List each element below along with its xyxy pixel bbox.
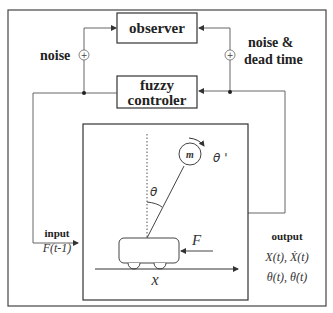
output-title: output <box>271 230 303 242</box>
fuzzy-label: fuzzy <box>140 77 175 93</box>
mass-label: m <box>186 149 194 160</box>
inverted-pendulum-control-diagram: observer fuzzy controler + noise + noise… <box>0 0 333 313</box>
fuzzy-controller-block: fuzzy controler <box>117 76 197 108</box>
junction-dot-left <box>82 91 86 95</box>
controler-label: controler <box>128 92 187 108</box>
summing-junction-right: + <box>225 50 235 60</box>
input-title: input <box>44 227 69 239</box>
output-states-xy: X(t), Ẋ(t) <box>264 250 308 264</box>
noise-deadtime-label-1: noise & <box>248 35 294 50</box>
pendulum-mass: m <box>179 143 201 165</box>
angular-velocity-label: θ ' <box>213 151 227 165</box>
observer-label: observer <box>129 20 185 36</box>
noise-deadtime-label-2: dead time <box>244 52 303 67</box>
summing-junction-left: + <box>79 50 89 60</box>
observer-block: observer <box>117 13 197 43</box>
junction-dot-right <box>228 90 232 94</box>
angle-label: θ <box>150 185 158 199</box>
position-label: x <box>150 271 158 288</box>
svg-text:+: + <box>81 51 88 60</box>
svg-text:+: + <box>227 51 234 60</box>
output-states-theta: θ(t), θ̇(t) <box>267 270 307 284</box>
force-label: F <box>191 232 202 248</box>
noise-left-label: noise <box>40 48 70 63</box>
input-expression: F(t-1) <box>42 241 72 255</box>
